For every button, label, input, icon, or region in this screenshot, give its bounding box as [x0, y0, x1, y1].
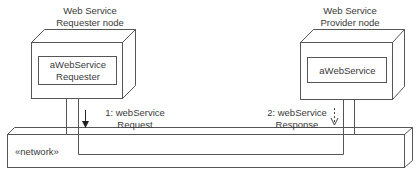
requester-title-line1: Web Service [40, 5, 140, 17]
response-message-line2: Response [262, 119, 332, 131]
network-stereotype-label: «network» [15, 146, 59, 158]
requester-component-label: aWebService Requester [39, 57, 117, 85]
provider-title-line2: Provider node [300, 17, 400, 29]
response-message-label: 2: webService Response [262, 107, 332, 131]
request-message-label: 1: webService Request [100, 107, 170, 131]
requester-node-title: Web Service Requester node [40, 5, 140, 29]
request-arrow-icon [82, 110, 89, 128]
requester-component-line1: aWebService [50, 59, 106, 71]
provider-node-title: Web Service Provider node [300, 5, 400, 29]
response-arrow-icon [331, 108, 338, 125]
response-message-line1: 2: webService [262, 107, 332, 119]
network-node-box [8, 128, 413, 168]
request-message-line2: Request [100, 119, 170, 131]
provider-component-line1: aWebService [319, 65, 375, 77]
provider-component-label: aWebService [308, 58, 387, 83]
requester-title-line2: Requester node [40, 17, 140, 29]
requester-component-line2: Requester [56, 71, 100, 83]
request-message-line1: 1: webService [100, 107, 170, 119]
provider-title-line1: Web Service [300, 5, 400, 17]
